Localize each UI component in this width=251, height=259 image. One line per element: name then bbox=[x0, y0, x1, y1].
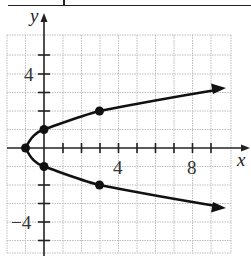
y-tick-label-neg4: −4 bbox=[11, 212, 32, 233]
x-tick-label-8: 8 bbox=[187, 157, 197, 178]
x-axis-label: x bbox=[236, 149, 246, 170]
axes bbox=[7, 13, 250, 256]
point-0-1 bbox=[40, 125, 49, 134]
point-0-neg1 bbox=[40, 162, 49, 171]
x-tick-label-4: 4 bbox=[113, 157, 123, 178]
point-vertex bbox=[21, 144, 30, 153]
parabola-graph: y x 4 −4 4 8 bbox=[0, 0, 251, 259]
point-3-2 bbox=[95, 107, 104, 116]
y-axis-arrow-icon bbox=[41, 13, 48, 22]
point-3-neg2 bbox=[95, 181, 104, 190]
y-tick-label-4: 4 bbox=[24, 64, 34, 85]
y-axis-label: y bbox=[28, 5, 39, 26]
upper-branch bbox=[26, 90, 217, 148]
